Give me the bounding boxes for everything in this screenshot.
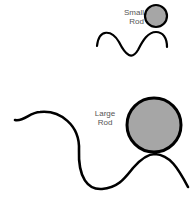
small-rod-label-line2: Rod (114, 17, 144, 26)
diagram-canvas (0, 0, 195, 199)
small-rod-label: Small Rod (114, 8, 144, 26)
large-rod-label: Large Rod (90, 109, 120, 127)
small-wave-curve (97, 32, 167, 56)
large-rod-label-line2: Rod (90, 118, 120, 127)
large-rod-circle (127, 98, 181, 152)
small-rod-circle (145, 5, 167, 27)
small-rod-label-line1: Small (114, 8, 144, 17)
large-rod-label-line1: Large (90, 109, 120, 118)
